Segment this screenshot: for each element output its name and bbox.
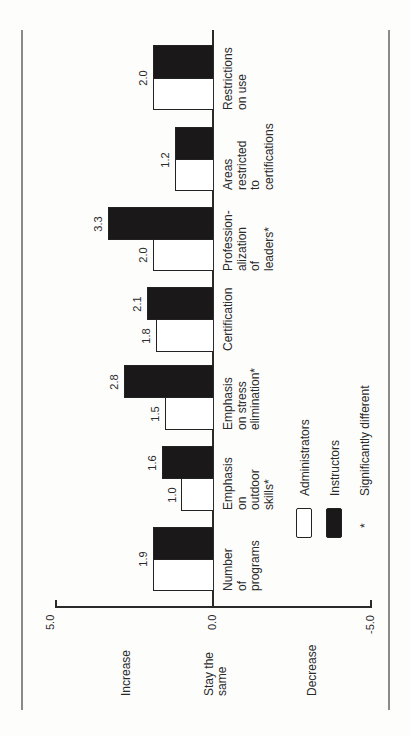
frame-bottom-line bbox=[388, 30, 390, 710]
legend-label-administrators: Administrators bbox=[298, 419, 312, 496]
legend-asterisk: * bbox=[358, 523, 372, 528]
bar-administrators-certification bbox=[156, 319, 213, 352]
bar-administrators-restrictions-on-use bbox=[153, 78, 213, 110]
category-label-restrictions-on-use: Restrictions on use bbox=[222, 47, 249, 110]
value-label: 3.3 bbox=[92, 204, 104, 244]
category-label-certification: Certification bbox=[222, 288, 236, 351]
value-label: 1.5 bbox=[149, 394, 161, 434]
bar-administrators-professionalization bbox=[153, 239, 213, 271]
value-label: 1.2 bbox=[159, 140, 171, 180]
bar-administrators-stress-elimination bbox=[165, 397, 213, 430]
value-label: 2.0 bbox=[137, 58, 149, 98]
frame-top-line bbox=[21, 30, 23, 710]
region-same-label: Stay the same bbox=[203, 652, 229, 696]
legend-swatch-instructors bbox=[326, 508, 342, 538]
bar-administrators-areas-restricted bbox=[175, 159, 213, 191]
legend-label-instructors: Instructors bbox=[328, 440, 342, 496]
value-label: 1.9 bbox=[137, 539, 149, 579]
value-label: 1.0 bbox=[166, 475, 178, 515]
bar-instructors-areas-restricted bbox=[175, 127, 213, 160]
category-label-professionalization: Profession- alization of leaders* bbox=[222, 210, 276, 271]
tick-label-5: 5.0 bbox=[44, 615, 56, 630]
value-label: 2.8 bbox=[108, 362, 120, 402]
bar-instructors-number-of-programs bbox=[153, 527, 213, 560]
value-label: 1.6 bbox=[146, 443, 158, 483]
bar-instructors-professionalization bbox=[108, 207, 213, 240]
value-label: 2.0 bbox=[137, 235, 149, 275]
value-label: 2.1 bbox=[131, 284, 143, 324]
bar-instructors-restrictions-on-use bbox=[153, 45, 213, 79]
bar-administrators-number-of-programs bbox=[153, 559, 213, 591]
tick-label-neg5: -5.0 bbox=[364, 615, 376, 634]
category-label-outdoor-skills: Emphasis on outdoor skills* bbox=[222, 457, 276, 510]
region-increase-label: Increase bbox=[120, 650, 133, 696]
axis-tick-bottom bbox=[370, 600, 372, 608]
chart-stage: 5.0 0.0 -5.0 Increase Stay the same Decr… bbox=[0, 0, 410, 736]
bar-instructors-stress-elimination bbox=[124, 365, 213, 398]
legend-swatch-administrators bbox=[296, 508, 312, 538]
tick-label-0: 0.0 bbox=[206, 615, 218, 630]
bar-administrators-outdoor-skills bbox=[181, 478, 213, 511]
legend-footnote-significantly-different: Significantly different bbox=[358, 385, 372, 496]
category-label-areas-restricted: Areas restricted to certifications bbox=[222, 123, 276, 190]
category-label-stress-elimination: Emphasis on stress elimination* bbox=[222, 368, 263, 430]
region-decrease-label: Decrease bbox=[306, 645, 319, 696]
axis-tick-top bbox=[55, 600, 57, 608]
category-label-number-of-programs: Number of programs bbox=[222, 540, 263, 591]
bar-instructors-certification bbox=[147, 287, 213, 320]
